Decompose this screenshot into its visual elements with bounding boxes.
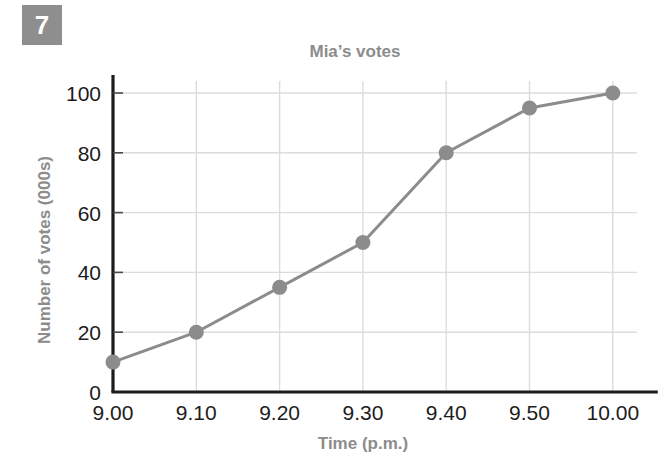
x-tick-label: 9.40: [426, 401, 467, 424]
x-tick-label: 9.30: [342, 401, 383, 424]
data-point: [272, 280, 287, 295]
data-point: [522, 100, 537, 115]
x-tick-label: 9.00: [93, 401, 134, 424]
data-point: [189, 325, 204, 340]
line-chart-plot: 020406080100 9.009.109.209.309.409.5010.…: [0, 0, 670, 471]
data-point: [439, 145, 454, 160]
y-tick-label: 100: [66, 82, 101, 105]
y-tick-label: 20: [78, 321, 101, 344]
x-axis-tick-labels: 9.009.109.209.309.409.5010.00: [93, 401, 640, 424]
y-tick-label: 60: [78, 202, 101, 225]
x-tick-label: 9.50: [509, 401, 550, 424]
y-tick-label: 40: [78, 261, 101, 284]
data-point: [355, 235, 370, 250]
x-tick-label: 10.00: [587, 401, 640, 424]
x-tick-label: 9.10: [176, 401, 217, 424]
y-tick-label: 80: [78, 142, 101, 165]
y-axis-tick-labels: 020406080100: [66, 82, 101, 404]
data-point: [106, 355, 121, 370]
horizontal-gridlines: [113, 93, 637, 332]
axis-lines: [111, 75, 657, 392]
x-tick-label: 9.20: [259, 401, 300, 424]
data-point: [605, 86, 620, 101]
